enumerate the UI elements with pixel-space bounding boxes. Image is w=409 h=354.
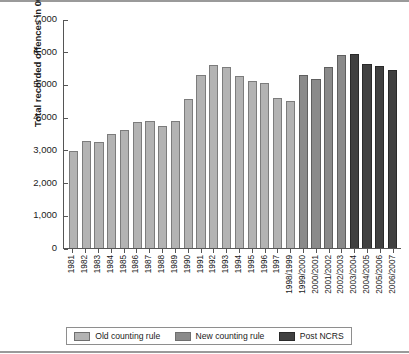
bar[interactable] [337,55,346,248]
x-label-slot: 1994 [233,255,246,317]
x-tick-mark [175,249,176,253]
x-label-slot: 1984 [104,255,117,317]
bar-slot [118,20,131,248]
y-tick-label: 0 [52,242,57,253]
x-label-slot: 1989 [169,255,182,317]
x-tick-mark [380,249,381,253]
x-tick-mark [252,249,253,253]
x-tick-mark [149,249,150,253]
x-tick-label: 2003/2004 [350,255,358,294]
bar-slot [373,20,386,248]
bar[interactable] [273,98,282,248]
bar-slot [207,20,220,248]
bar[interactable] [248,81,257,248]
x-tick-mark [136,249,137,253]
x-tick-label: 1997 [273,255,281,273]
bar-slot [361,20,374,248]
bar[interactable] [69,151,78,248]
bar-slot [80,20,93,248]
x-tick-label: 1983 [94,255,102,273]
x-tick-mark [290,249,291,253]
legend-item[interactable]: New counting rule [175,331,265,341]
bar-slot [105,20,118,248]
bar[interactable] [235,76,244,248]
x-tick-label: 1984 [107,255,115,273]
x-tick-label: 2005/2006 [376,255,384,294]
bar[interactable] [133,122,142,248]
bar[interactable] [388,70,397,248]
legend-swatch [279,332,295,341]
x-tick-mark [201,249,202,253]
bar[interactable] [120,130,129,248]
legend-label: New counting rule [196,331,265,341]
bar-slot [195,20,208,248]
x-tick-label: 1982 [81,255,89,273]
x-tick-mark [265,249,266,253]
x-label-slot: 2005/2006 [374,255,387,317]
bar-slot [386,20,399,248]
bar-slot [182,20,195,248]
x-tick-mark [303,249,304,253]
x-label-slot: 1988 [156,255,169,317]
x-tick-mark [367,249,368,253]
legend-swatch [175,332,191,341]
bar[interactable] [158,126,167,248]
bar[interactable] [209,65,218,248]
x-tick-label: 1987 [145,255,153,273]
x-label-slot: 2004/2005 [361,255,374,317]
legend-swatch [74,332,90,341]
bar[interactable] [299,75,308,248]
bar[interactable] [82,141,91,248]
bar[interactable] [145,121,154,248]
x-tick-label: 1991 [196,255,204,273]
x-tick-label: 1993 [222,255,230,273]
bar[interactable] [171,121,180,248]
x-tick-label: 2002/2003 [337,255,345,294]
bar-slot [156,20,169,248]
x-label-slot: 1982 [79,255,92,317]
bar[interactable] [107,134,116,248]
bar-slot [310,20,323,248]
x-tick-mark [226,249,227,253]
bar[interactable] [286,101,295,248]
bar[interactable] [324,67,333,248]
chart-figure: Total recorded offences in 000s 7,0006,0… [0,0,409,354]
x-tick-mark [393,249,394,253]
x-label-slot: 2006/2007 [386,255,399,317]
plot-area: 7,0006,0005,0004,0003,0002,0001,0000 [63,20,401,249]
bar[interactable] [362,64,371,248]
x-tick-label: 1985 [120,255,128,273]
bar-slot [297,20,310,248]
legend-label: Old counting rule [95,331,160,341]
bar-slot [93,20,106,248]
bar-slot [348,20,361,248]
x-tick-mark [329,249,330,253]
x-tick-label: 1995 [248,255,256,273]
x-label-slot: 1993 [220,255,233,317]
bar[interactable] [196,75,205,248]
x-tick-mark [354,249,355,253]
legend-item[interactable]: Old counting rule [74,331,160,341]
x-tick-label: 1994 [235,255,243,273]
x-tick-label: 1992 [209,255,217,273]
x-label-slot: 2002/2003 [335,255,348,317]
legend-item[interactable]: Post NCRS [279,331,344,341]
bar-slot [169,20,182,248]
bar-slot [246,20,259,248]
bar[interactable] [311,79,320,248]
bar-slot [220,20,233,248]
bar[interactable] [94,142,103,248]
x-label-slot: 1997 [271,255,284,317]
x-label-slot: 1991 [194,255,207,317]
x-tick-label: 1986 [132,255,140,273]
x-tick-mark [277,249,278,253]
bar[interactable] [350,54,359,248]
x-tick-mark [72,249,73,253]
x-label-slot: 2001/2002 [322,255,335,317]
bar[interactable] [184,99,193,248]
bar[interactable] [222,67,231,248]
chart-legend: Old counting ruleNew counting rulePost N… [66,327,352,345]
bar[interactable] [260,83,269,248]
bar[interactable] [375,66,384,248]
x-tick-label: 1998/1999 [286,255,294,294]
